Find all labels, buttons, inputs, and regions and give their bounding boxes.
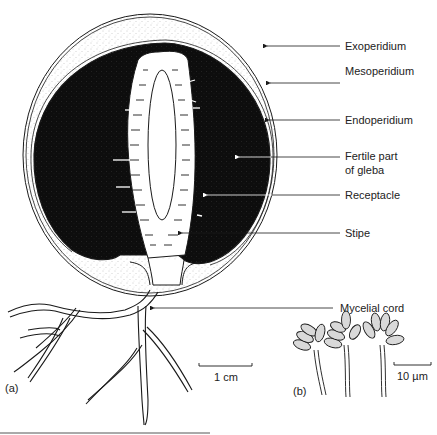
panel-label-a: (a) — [5, 382, 18, 395]
label-fertile-gleba-line2: of gleba — [345, 164, 384, 177]
panel-label-b: (b) — [293, 385, 306, 398]
scale-label-10um: 10 µm — [397, 370, 428, 383]
label-receptacle: Receptacle — [345, 189, 400, 202]
basidium-2 — [323, 311, 363, 397]
label-fertile-gleba-line1: Fertile part — [345, 150, 398, 163]
label-stipe: Stipe — [345, 227, 370, 240]
basidium-3 — [361, 312, 405, 397]
basidia — [292, 311, 405, 397]
scale-bar-10um — [394, 362, 431, 365]
label-endoperidium: Endoperidium — [345, 114, 413, 127]
mycelial-cords — [8, 290, 192, 425]
label-exoperidium: Exoperidium — [345, 40, 406, 53]
scale-bar-1cm — [199, 363, 252, 366]
scale-label-1cm: 1 cm — [214, 371, 238, 384]
label-mesoperidium: Mesoperidium — [345, 65, 414, 78]
basidium-1 — [292, 322, 327, 395]
label-mycelial-cord: Mycelial cord — [340, 302, 404, 315]
